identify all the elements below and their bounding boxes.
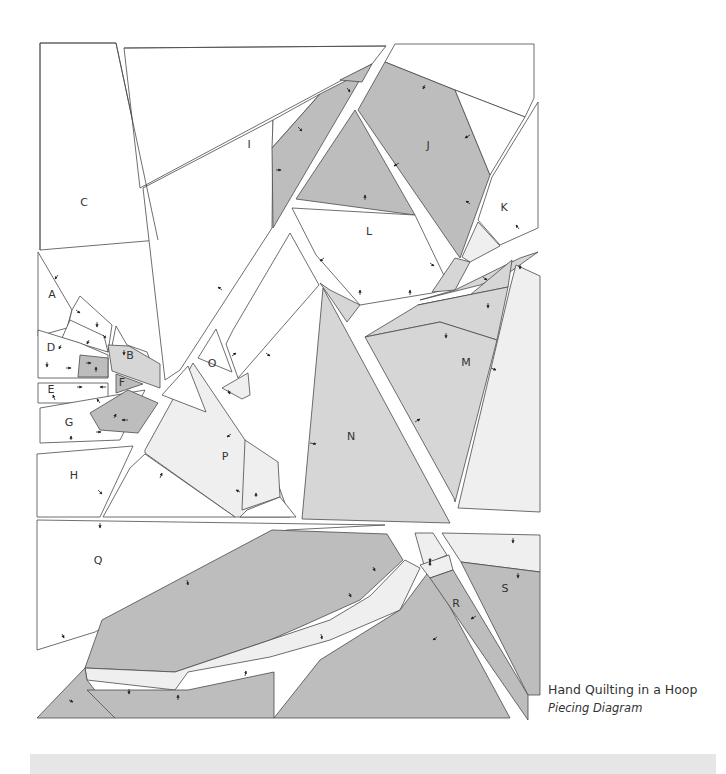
piece-label-m: M <box>461 356 471 369</box>
piece-label-r: R <box>452 597 460 610</box>
piecing-diagram: ABCDEFGHIJKLMNOPQRS <box>0 0 726 774</box>
piece-o-strip-light <box>222 373 250 399</box>
press-arrow-icon <box>266 353 270 356</box>
piece-label-i: I <box>247 138 250 151</box>
piece-label-e: E <box>48 383 55 396</box>
caption-subtitle: Piecing Diagram <box>548 699 697 717</box>
caption-title: Hand Quilting in a Hoop <box>548 681 697 699</box>
piece-label-c: C <box>80 196 88 209</box>
piece-l-white <box>292 208 450 305</box>
piece-label-h: H <box>70 469 78 482</box>
piece-label-p: P <box>222 450 229 463</box>
piece-d-dark <box>78 355 108 377</box>
piece-label-a: A <box>48 288 56 301</box>
piece-label-b: B <box>126 349 134 362</box>
diagram-caption: Hand Quilting in a Hoop Piecing Diagram <box>548 681 697 717</box>
piece-label-k: K <box>500 201 508 214</box>
piece-label-l: L <box>366 225 373 238</box>
footer-bar <box>30 754 716 774</box>
piece-label-d: D <box>47 341 55 354</box>
piece-label-q: Q <box>94 554 103 567</box>
press-arrow-icon <box>245 671 246 676</box>
piece-label-g: G <box>65 416 74 429</box>
piece-label-n: N <box>347 430 355 443</box>
piece-label-j: J <box>425 139 429 152</box>
piece-label-o: O <box>208 357 217 370</box>
piece-label-s: S <box>502 582 509 595</box>
press-arrow-icon <box>55 275 58 279</box>
piece-label-f: F <box>119 376 125 389</box>
quilt-pieces <box>37 43 540 720</box>
